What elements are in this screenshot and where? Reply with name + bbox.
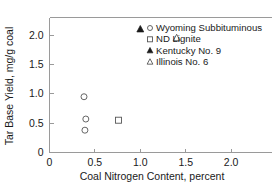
data-point-open-circle bbox=[82, 127, 88, 133]
x-axis-ticks: 00.51.01.52.0 bbox=[47, 149, 239, 168]
legend-marker-open-circle bbox=[148, 26, 153, 31]
x-tick-label: 1.5 bbox=[178, 156, 193, 168]
y-tick-label: 2.0 bbox=[29, 29, 44, 41]
chart-canvas: 00.51.01.52.0 00.51.01.52.0 Wyoming Subb… bbox=[0, 0, 274, 190]
legend-label: Wyoming Subbituminous bbox=[156, 22, 262, 33]
data-point-open-circle bbox=[83, 116, 89, 122]
data-point-filled-triangle bbox=[137, 25, 144, 31]
series-1 bbox=[116, 117, 122, 123]
y-tick-label: 1.0 bbox=[29, 87, 44, 99]
y-tick-label: 1.5 bbox=[29, 58, 44, 70]
scatter-chart-figure: 00.51.01.52.0 00.51.01.52.0 Wyoming Subb… bbox=[0, 0, 274, 190]
legend-label: Kentucky No. 9 bbox=[156, 45, 221, 56]
legend-label: Illinois No. 6 bbox=[156, 56, 208, 67]
data-point-open-square bbox=[116, 117, 122, 123]
y-axis-title: Tar Base Yield, mg/g coal bbox=[3, 27, 15, 145]
y-tick-label: 0 bbox=[38, 146, 44, 158]
x-tick-label: 0 bbox=[47, 156, 53, 168]
series-0 bbox=[81, 94, 89, 133]
x-tick-label: 1.0 bbox=[133, 156, 148, 168]
x-tick-label: 0.5 bbox=[88, 156, 103, 168]
y-tick-label: 0.5 bbox=[29, 117, 44, 129]
legend-marker-filled-triangle bbox=[147, 47, 153, 52]
x-axis-title: Coal Nitrogen Content, percent bbox=[80, 170, 225, 182]
data-point-open-circle bbox=[81, 94, 87, 100]
legend-marker-open-square bbox=[148, 37, 153, 42]
legend-marker-open-triangle bbox=[147, 59, 153, 64]
chart-legend: Wyoming SubbituminousND LigniteKentucky … bbox=[147, 22, 262, 67]
series-2 bbox=[137, 25, 144, 31]
legend-label: ND Lignite bbox=[156, 33, 201, 44]
x-tick-label: 2.0 bbox=[224, 156, 239, 168]
